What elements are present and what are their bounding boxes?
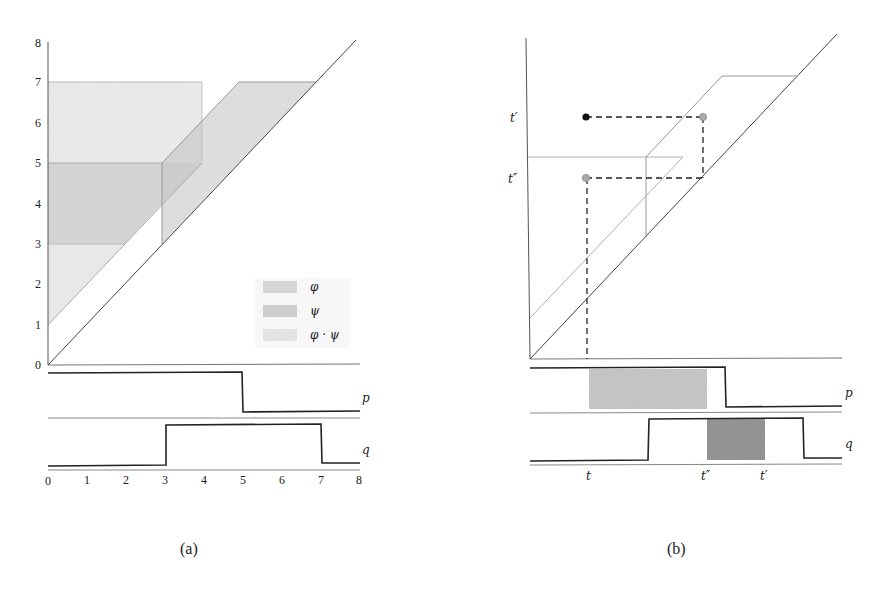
svg-text:0: 0 [45,474,51,488]
signal-q-b-label: q [845,437,853,451]
panel-b: t′ t″ p q t t″ t′ (b) [508,34,853,558]
signal-q-label: q [362,443,370,457]
legend-label-psi: ψ [310,304,320,318]
y-label-t-prime: t′ [510,111,518,125]
shape-light [528,157,683,318]
svg-text:0: 0 [35,358,41,372]
point-t-tprime [582,113,589,120]
svg-text:8: 8 [35,36,41,50]
svg-text:1: 1 [35,318,41,332]
y-label-t-dprime: t″ [508,172,518,186]
figure: 0 1 2 3 4 5 6 7 8 φ ψ φ · ψ p [0,0,880,591]
signal-p-label: p [362,391,370,405]
svg-text:7: 7 [318,473,324,487]
svg-text:2: 2 [35,277,41,291]
legend-label-phi-psi: φ · ψ [310,328,340,342]
signal-p-b-label: p [845,386,853,400]
caption-b: (b) [667,540,686,558]
x-tick-labels: 0 1 2 3 4 5 6 7 8 [45,473,362,488]
signal-q: q [48,424,370,470]
x-axis [48,364,360,365]
x-axis-b [530,358,842,359]
x-label-t-dprime: t″ [701,469,711,483]
y-axis-b [526,38,530,359]
svg-text:3: 3 [162,473,168,487]
highlight-q [707,419,765,460]
point-tdprime-tprime [699,113,706,120]
region-phi [48,163,162,244]
legend: φ ψ φ · ψ [255,278,350,348]
signal-p-b: p [530,367,853,413]
point-t-tdprime [582,174,589,181]
panel-a: 0 1 2 3 4 5 6 7 8 φ ψ φ · ψ p [35,36,370,558]
svg-text:4: 4 [35,197,41,211]
svg-text:6: 6 [279,473,285,487]
diagonal-b [530,34,837,359]
y-tick-labels: 0 1 2 3 4 5 6 7 8 [35,36,41,372]
legend-swatch-psi [263,305,297,317]
legend-swatch-phi-psi [263,329,297,341]
caption-a: (a) [180,540,198,558]
svg-text:4: 4 [201,473,207,487]
svg-text:7: 7 [35,75,41,89]
signal-p: p [48,372,370,418]
svg-text:6: 6 [35,116,41,130]
svg-text:8: 8 [356,473,362,487]
x-label-t: t [586,469,591,483]
highlight-p [589,369,707,409]
signal-q-b: q [530,418,853,465]
svg-text:1: 1 [84,473,90,487]
x-label-t-prime: t′ [760,469,768,483]
svg-text:2: 2 [123,473,129,487]
legend-swatch-phi [263,281,297,293]
svg-text:3: 3 [35,237,41,251]
svg-text:5: 5 [35,156,41,170]
legend-label-phi: φ [310,280,319,294]
svg-text:5: 5 [240,473,246,487]
